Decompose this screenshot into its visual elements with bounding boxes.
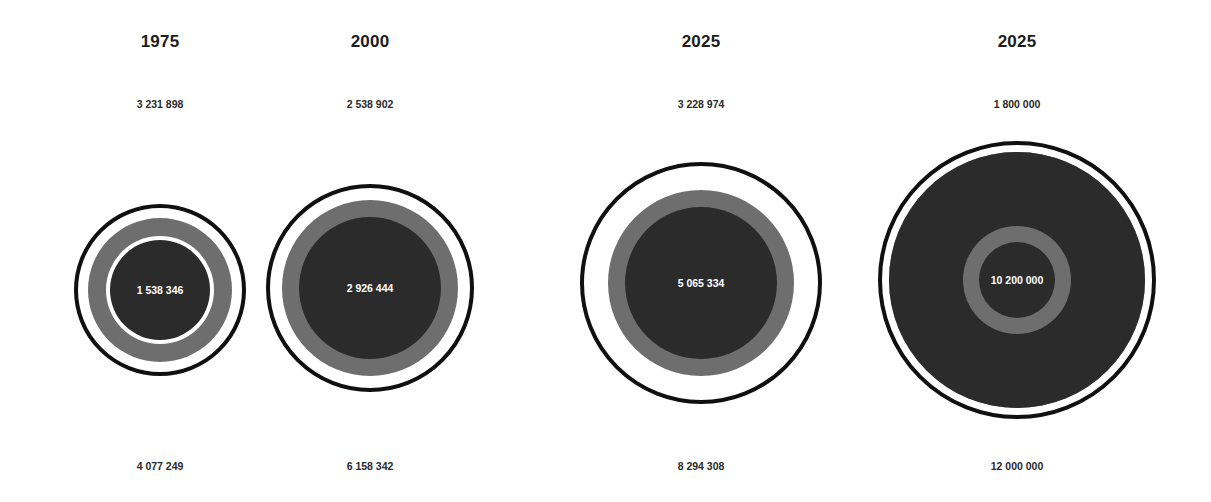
bottom-value-label: 6 158 342 [252, 461, 488, 472]
chart-column-4: 20251 800 00010 200 00012 000 000 [888, 0, 1146, 502]
circle-comparison-chart: 19753 231 8981 538 3464 077 24920002 538… [0, 0, 1211, 502]
year-label: 2000 [252, 33, 488, 50]
top-value-label: 1 800 000 [888, 99, 1146, 110]
top-value-label: 2 538 902 [252, 99, 488, 110]
chart-column-2: 20002 538 9022 926 4446 158 342 [252, 0, 488, 502]
year-label: 2025 [578, 33, 824, 50]
nested-circles: 5 065 334 [578, 158, 824, 408]
center-value-label: 5 065 334 [678, 278, 725, 289]
top-value-label: 3 231 898 [48, 99, 272, 110]
center-value-label: 10 200 000 [991, 275, 1044, 286]
bottom-value-label: 8 294 308 [578, 461, 824, 472]
year-label: 1975 [48, 33, 272, 50]
bottom-value-label: 12 000 000 [888, 461, 1146, 472]
nested-circles: 2 926 444 [252, 180, 488, 396]
nested-circles: 10 200 000 [888, 137, 1146, 423]
nested-circles: 1 538 346 [48, 200, 272, 380]
chart-column-3: 20253 228 9745 065 3348 294 308 [578, 0, 824, 502]
year-label: 2025 [888, 33, 1146, 50]
center-value-label: 1 538 346 [137, 285, 184, 296]
top-value-label: 3 228 974 [578, 99, 824, 110]
bottom-value-label: 4 077 249 [48, 461, 272, 472]
chart-column-1: 19753 231 8981 538 3464 077 249 [48, 0, 272, 502]
center-value-label: 2 926 444 [347, 283, 394, 294]
